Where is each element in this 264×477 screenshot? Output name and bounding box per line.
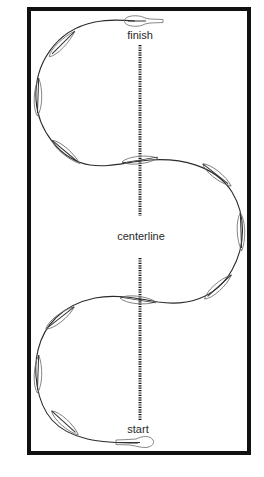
- finish-label: finish: [127, 29, 153, 41]
- boat-marker-finish: [125, 16, 164, 27]
- boat-marker-start: [116, 437, 154, 448]
- boat-marker-10: [34, 355, 43, 393]
- boat-marker-6: [237, 213, 246, 251]
- boat-marker-5: [201, 161, 234, 189]
- boat-marker-9: [44, 304, 77, 332]
- boat-marker-8: [120, 294, 157, 305]
- boat-marker-1: [47, 29, 77, 59]
- boat-marker-2: [34, 78, 43, 116]
- serpentine-diagram: finish centerline start: [0, 0, 264, 477]
- boat-marker-3: [50, 138, 82, 166]
- boat-marker-7: [202, 272, 234, 302]
- start-label: start: [127, 423, 148, 435]
- boat-marker-11: [49, 408, 81, 438]
- centerline-label: centerline: [117, 230, 165, 242]
